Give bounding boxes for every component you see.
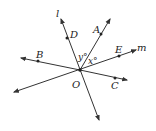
point-d (66, 37, 69, 40)
label-o: O (72, 79, 80, 90)
label-b: B (35, 49, 43, 60)
label-d: D (69, 29, 78, 40)
geometry-diagram: l D A E m B y° x° O C (0, 0, 156, 131)
label-e: E (114, 44, 123, 55)
ray-ob (21, 58, 80, 70)
diagram-canvas: l D A E m B y° x° O C (0, 0, 156, 131)
angle-y-label: y° (77, 52, 88, 62)
label-a: A (92, 24, 100, 35)
label-l: l (56, 8, 59, 19)
label-c: C (111, 80, 119, 91)
point-o (78, 68, 82, 72)
label-m: m (137, 42, 146, 53)
angle-x-label: x° (88, 56, 98, 66)
ray-oc (80, 70, 127, 80)
